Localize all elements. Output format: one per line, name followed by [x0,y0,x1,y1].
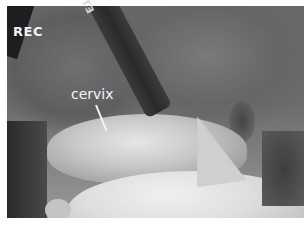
rec-indicator: REC [13,24,43,39]
surgical-image-frame [7,6,304,218]
left-shadow-region [7,121,47,218]
tissue-flap [187,111,246,187]
tissue-bulb [45,199,71,218]
right-shadow-region [262,131,304,206]
cervix-label: cervix [71,86,114,102]
